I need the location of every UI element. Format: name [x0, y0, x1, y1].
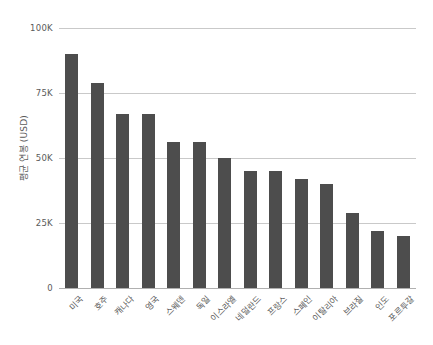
x-axis-labels: 미국호주캐나다영국스웨덴독일이스라엘네덜란드프랑스스페인이탈리아브라질인도포르투… [59, 292, 416, 345]
bar[interactable] [193, 142, 206, 288]
bar[interactable] [142, 114, 155, 288]
y-tick-label: 75K [36, 88, 53, 98]
bar[interactable] [116, 114, 129, 288]
bar[interactable] [269, 171, 282, 288]
plot-area: 025K50K75K100K [59, 28, 416, 288]
y-tick-label: 100K [30, 23, 53, 33]
bar[interactable] [295, 179, 308, 288]
bar[interactable] [320, 184, 333, 288]
bar[interactable] [346, 213, 359, 288]
bar-chart: 평균 연봉 (USD) 025K50K75K100K 미국호주캐나다영국스웨덴독… [0, 0, 433, 345]
bar[interactable] [397, 236, 410, 288]
bar[interactable] [371, 231, 384, 288]
bar[interactable] [218, 158, 231, 288]
bar[interactable] [91, 83, 104, 288]
bars-series [59, 28, 416, 288]
gridline [59, 288, 416, 289]
y-axis-title: 평균 연봉 (USD) [16, 28, 30, 268]
bar[interactable] [167, 142, 180, 288]
y-tick-label: 50K [36, 153, 53, 163]
y-tick-label: 25K [36, 218, 53, 228]
bar[interactable] [65, 54, 78, 288]
y-tick-label: 0 [47, 283, 53, 293]
bar[interactable] [244, 171, 257, 288]
